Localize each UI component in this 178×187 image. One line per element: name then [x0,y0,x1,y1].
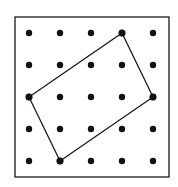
lattice-dot-r3-c0 [26,126,32,132]
lattice-dot-r3-c4 [150,126,156,132]
lattice-dot-r1-c4 [150,62,156,68]
lattice-dot-r0-c1 [57,30,63,36]
lattice-dot-r1-c1 [57,62,63,68]
lattice-dot-r4-c4 [150,158,156,164]
dot-lattice [26,30,156,164]
lattice-dot-r1-c0 [26,62,32,68]
lattice-dot-r1-c3 [119,62,125,68]
lattice-dot-r3-c1 [57,126,63,132]
polygon-vertex-2 [57,158,64,165]
polygon-vertex-1 [150,94,157,101]
lattice-dot-r4-c0 [26,158,32,164]
lattice-dot-r2-c1 [57,94,63,100]
lattice-dot-r1-c2 [88,62,94,68]
lattice-dot-r4-c3 [119,158,125,164]
lattice-dot-r3-c3 [119,126,125,132]
lattice-dot-r0-c4 [150,30,156,36]
polygon-vertex-3 [26,94,33,101]
dot-grid-diagram [0,0,178,187]
lattice-dot-r2-c2 [88,94,94,100]
lattice-dot-r2-c3 [119,94,125,100]
polygon-vertex-0 [119,30,126,37]
lattice-dot-r0-c2 [88,30,94,36]
lattice-dot-r0-c0 [26,30,32,36]
lattice-dot-r3-c2 [88,126,94,132]
lattice-dot-r4-c2 [88,158,94,164]
